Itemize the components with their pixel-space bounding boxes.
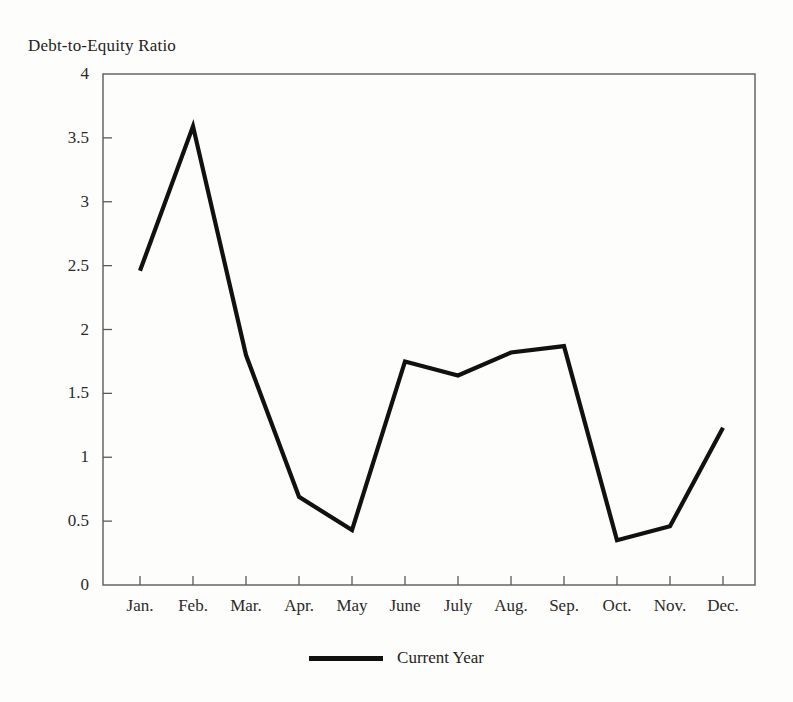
x-tick-label: Sep.: [549, 596, 579, 616]
x-axis-ticks: [140, 576, 723, 585]
axis-frame: [103, 74, 755, 585]
legend-line-swatch: [309, 656, 383, 661]
y-tick-label: 3.5: [33, 128, 89, 148]
chart-legend: Current Year: [0, 648, 793, 668]
y-tick-label: 0.5: [33, 511, 89, 531]
chart-figure: Debt-to-Equity Ratio 00.511.522.533.54 J…: [0, 0, 793, 702]
data-series-group: [140, 126, 723, 540]
y-tick-label: 0: [33, 575, 89, 595]
x-tick-label: June: [389, 596, 420, 616]
y-tick-label: 3: [33, 192, 89, 212]
y-axis-ticks: [103, 138, 112, 521]
y-tick-label: 1.5: [33, 383, 89, 403]
y-tick-label: 2.5: [33, 256, 89, 276]
x-tick-label: Feb.: [178, 596, 208, 616]
y-tick-label: 4: [33, 64, 89, 84]
y-tick-label: 2: [33, 320, 89, 340]
x-tick-label: Nov.: [654, 596, 686, 616]
legend-label-current-year: Current Year: [397, 648, 484, 668]
x-tick-label: Dec.: [707, 596, 739, 616]
x-tick-label: Oct.: [603, 596, 632, 616]
x-tick-label: Mar.: [230, 596, 262, 616]
x-tick-label: Jan.: [127, 596, 154, 616]
y-tick-label: 1: [33, 447, 89, 467]
x-tick-label: July: [444, 596, 472, 616]
x-tick-label: Aug.: [494, 596, 528, 616]
x-tick-label: Apr.: [284, 596, 314, 616]
x-tick-label: May: [336, 596, 367, 616]
